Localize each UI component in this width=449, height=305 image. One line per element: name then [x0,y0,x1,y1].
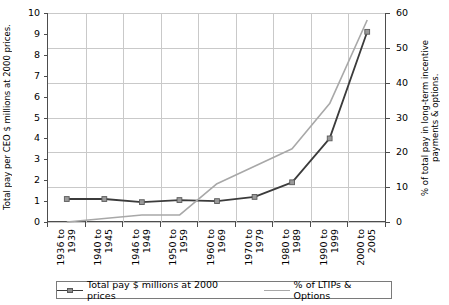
y-axis-left-tick-label: 0 [24,217,40,227]
y-axis-left-tick-mark [44,13,48,14]
x-axis-category-line: 1960 to [205,229,216,266]
y-axis-right-tick-mark [386,83,390,84]
series-line [67,20,367,222]
x-axis-category-line: 1980 to [280,229,291,266]
x-axis-tick-mark [47,222,48,227]
y-axis-right-tick-label: 30 [396,113,414,123]
series-data-point-marker [139,200,144,205]
series-lines [48,13,386,222]
y-axis-right-tick-mark [386,152,390,153]
x-axis-tick-mark [197,222,198,227]
x-axis-category-label: 1936 to1939 [49,229,83,275]
y-axis-right-tick-label: 0 [396,217,414,227]
x-axis-category-line: 1949 [141,229,152,253]
series-data-point-marker [327,136,332,141]
y-axis-right-tick-mark [386,187,390,188]
y-axis-left-tick-label: 5 [24,113,40,123]
x-axis-category-label: 1950 to1959 [161,229,195,275]
y-axis-left-tick-label: 7 [24,71,40,81]
y-axis-right-tick-mark [386,222,390,223]
x-axis-category-line: 1945 [103,229,114,253]
y-axis-right-tick-mark [386,118,390,119]
x-axis-tick-mark [310,222,311,227]
legend-marker-ltips-icon [264,286,290,295]
legend-item-ltips: % of LTIPs & Options [264,279,391,301]
y-axis-left-tick-label: 8 [24,50,40,60]
x-axis-tick-mark [122,222,123,227]
x-axis-category-line: 1970 to [243,229,254,266]
x-axis-category-line: 1990 to [318,229,329,266]
x-axis-category-line: 1999 [329,229,340,253]
y-axis-right-title: % of total pay in long-term incentive pa… [420,18,446,218]
gridline-horizontal [48,222,386,223]
series-line [67,32,367,202]
chart-legend: Total pay $ millions at 2000 prices % of… [56,281,392,299]
series-data-point-marker [64,197,69,202]
legend-label-ltips: % of LTIPs & Options [294,279,391,301]
x-axis-category-line: 1950 to [167,229,178,266]
y-axis-left-title: Total pay per CEO $ millions at 2000 pri… [2,10,14,225]
y-axis-right-tick-label: 50 [396,43,414,53]
y-axis-left-tick-label: 10 [24,8,40,18]
y-axis-left-tick-mark [44,118,48,119]
legend-marker-total-pay-icon [57,286,83,295]
x-axis-category-line: 1959 [178,229,189,253]
y-axis-right-tick-mark [386,48,390,49]
series-data-point-marker [177,198,182,203]
x-axis-category-line: 1936 to [55,229,66,266]
y-axis-left-tick-label: 6 [24,92,40,102]
x-axis-tick-mark [272,222,273,227]
legend-label-total-pay: Total pay $ millions at 2000 prices [87,279,250,301]
series-data-point-marker [290,180,295,185]
y-axis-right-tick-label: 10 [396,182,414,192]
x-axis-category-line: 2005 [366,229,377,253]
series-data-point-marker [102,197,107,202]
x-axis-category-line: 1989 [291,229,302,253]
legend-item-total-pay: Total pay $ millions at 2000 prices [57,279,250,301]
x-axis-category-label: 1940 to1945 [86,229,120,275]
y-axis-left-tick-mark [44,55,48,56]
x-axis-category-label: 1960 to1969 [199,229,233,275]
y-axis-right-tick-mark [386,13,390,14]
x-axis-tick-mark [160,222,161,227]
x-axis-category-label: 2000 to2005 [349,229,383,275]
x-axis-category-line: 2000 to [355,229,366,266]
x-axis-category-line: 1939 [66,229,77,253]
x-axis-category-label: 1990 to1999 [312,229,346,275]
y-axis-right-tick-label: 40 [396,78,414,88]
x-axis-category-line: 1979 [254,229,265,253]
y-axis-left-tick-mark [44,159,48,160]
x-axis-tick-mark [85,222,86,227]
plot-area [47,13,385,222]
chart-container: Total pay per CEO $ millions at 2000 pri… [0,0,449,305]
y-axis-left-tick-label: 4 [24,133,40,143]
x-axis-tick-mark [235,222,236,227]
x-axis-category-label: 1980 to1989 [274,229,308,275]
y-axis-left-tick-mark [44,201,48,202]
y-axis-left-tick-label: 2 [24,175,40,185]
series-data-point-marker [365,29,370,34]
x-axis-category-line: 1946 to [130,229,141,266]
series-data-point-marker [252,195,257,200]
y-axis-left-tick-label: 1 [24,196,40,206]
x-axis-category-line: 1969 [216,229,227,253]
y-axis-right-tick-label: 20 [396,147,414,157]
x-axis-category-label: 1946 to1949 [124,229,158,275]
x-axis-tick-mark [347,222,348,227]
series-data-point-marker [215,199,220,204]
y-axis-left-tick-mark [44,138,48,139]
y-axis-left-tick-mark [44,180,48,181]
x-axis-category-label: 1970 to1979 [237,229,271,275]
y-axis-left-tick-label: 3 [24,154,40,164]
x-axis-category-line: 1940 to [92,229,103,266]
y-axis-left-tick-mark [44,76,48,77]
y-axis-left-tick-label: 9 [24,29,40,39]
y-axis-right-tick-label: 60 [396,8,414,18]
y-axis-left-tick-mark [44,34,48,35]
y-axis-left-tick-mark [44,97,48,98]
